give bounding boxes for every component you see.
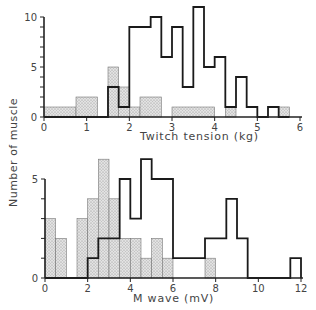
stippled-bar — [172, 107, 215, 117]
y-tick-label: 0 — [32, 273, 38, 284]
y-tick-label: 5 — [31, 62, 37, 73]
stippled-bar — [88, 199, 99, 278]
x-tick-label: 0 — [41, 122, 47, 133]
y-tick-label: 0 — [31, 112, 37, 123]
figure: 05100123456 05024681012 Number of muscle… — [0, 0, 316, 310]
stippled-bar — [119, 87, 130, 117]
stippled-bar — [108, 67, 119, 117]
stippled-bar — [76, 97, 97, 117]
y-tick-label: 10 — [24, 12, 37, 23]
x-tick-label: 2 — [84, 283, 90, 294]
x-tick-label: 1 — [83, 122, 89, 133]
stippled-bar — [141, 258, 152, 278]
x-tick-label: 0 — [42, 283, 48, 294]
m-wave-histogram: 05024681012 — [32, 159, 308, 294]
stippled-bar — [140, 97, 161, 117]
stippled-bar — [162, 258, 173, 278]
stippled-bar — [56, 238, 67, 278]
stippled-bar — [45, 219, 56, 278]
x-tick-label: 12 — [295, 283, 308, 294]
histogram-figure: 05100123456 05024681012 — [0, 0, 316, 310]
stippled-bar — [152, 238, 163, 278]
stippled-bar — [130, 238, 141, 278]
y-tick-label: 5 — [32, 174, 38, 185]
stippled-bar — [205, 258, 216, 278]
stippled-bar — [120, 238, 131, 278]
stippled-bar — [129, 107, 140, 117]
y-axis-label: Number of muscle — [7, 88, 20, 218]
stippled-bar — [279, 107, 290, 117]
x-tick-label: 6 — [297, 122, 303, 133]
stippled-bar — [225, 107, 236, 117]
stippled-bar — [44, 107, 76, 117]
x-tick-label: 10 — [252, 283, 265, 294]
stippled-bar — [98, 159, 109, 278]
x-tick-label: 2 — [126, 122, 132, 133]
twitch-tension-histogram: 05100123456 — [24, 7, 303, 133]
stippled-bar — [77, 219, 88, 278]
x-axis-label-twitch-tension: Twitch tension (kg) — [140, 130, 259, 143]
x-axis-label-m-wave: M wave (mV) — [133, 292, 214, 305]
